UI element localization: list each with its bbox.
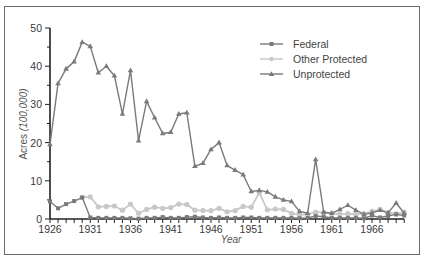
x-tick-label: 1966 <box>360 223 384 235</box>
x-tick-label: 1936 <box>119 223 143 235</box>
data-point <box>136 211 141 216</box>
data-point <box>216 206 221 211</box>
data-point <box>72 199 76 203</box>
data-point <box>193 215 197 219</box>
legend-item-federal: Federal <box>260 38 329 50</box>
x-tick-label: 1926 <box>38 223 62 235</box>
legend-label: Unprotected <box>293 68 350 80</box>
x-tick-label: 1951 <box>240 223 264 235</box>
data-point <box>112 216 116 220</box>
data-point <box>313 156 319 161</box>
data-point <box>136 138 142 143</box>
legend: Federal Other Protected Unprotected <box>260 38 367 80</box>
data-point <box>225 209 230 214</box>
data-point <box>346 216 350 220</box>
data-point <box>290 216 294 220</box>
data-point <box>129 216 133 220</box>
data-point <box>209 216 213 220</box>
data-point <box>144 98 150 103</box>
square-marker-icon <box>270 42 274 46</box>
data-point <box>88 194 93 199</box>
data-point <box>152 115 158 120</box>
legend-label: Federal <box>293 38 329 50</box>
data-point <box>152 205 157 210</box>
data-point <box>184 110 190 115</box>
data-point <box>153 216 157 220</box>
line-chart: 0102030405019261931193619411946195119561… <box>0 0 424 263</box>
data-point <box>56 206 60 210</box>
data-point <box>394 212 398 216</box>
x-tick-label: 1941 <box>159 223 183 235</box>
data-point <box>265 207 270 212</box>
data-point <box>184 202 189 207</box>
data-point <box>128 67 134 72</box>
series-other-protected <box>80 190 407 217</box>
data-point <box>208 208 213 213</box>
data-point <box>265 216 269 220</box>
data-point <box>128 202 133 207</box>
data-point <box>330 216 334 220</box>
data-point <box>313 210 318 215</box>
data-point <box>322 215 326 219</box>
data-point <box>48 199 52 203</box>
data-point <box>104 204 109 209</box>
y-tick-label: 50 <box>30 22 42 34</box>
data-point <box>306 216 310 220</box>
data-point <box>273 216 277 220</box>
data-point <box>161 215 165 219</box>
y-tick-label: 40 <box>30 60 42 72</box>
data-point <box>257 187 263 192</box>
data-point <box>88 215 92 219</box>
x-tick-label: 1931 <box>79 223 103 235</box>
data-point <box>217 215 221 219</box>
data-point <box>200 208 205 213</box>
data-point <box>345 211 350 216</box>
data-point <box>160 206 165 211</box>
data-point <box>168 205 173 210</box>
data-point <box>281 216 285 220</box>
data-point <box>176 202 181 207</box>
x-axis-title: Year <box>221 234 242 245</box>
data-point <box>338 216 342 220</box>
x-tick-label: 1961 <box>320 223 344 235</box>
data-point <box>281 207 286 212</box>
y-tick-label: 30 <box>30 98 42 110</box>
data-point <box>241 204 246 209</box>
data-point <box>249 215 253 219</box>
data-point <box>216 140 222 145</box>
data-point <box>168 129 174 134</box>
data-point <box>233 208 238 213</box>
data-point <box>233 216 237 220</box>
data-point <box>201 215 205 219</box>
data-point <box>144 207 149 212</box>
data-point <box>177 216 181 220</box>
y-tick-label: 20 <box>30 137 42 149</box>
data-point <box>120 216 124 220</box>
series-unprotected <box>47 39 407 216</box>
data-point <box>192 208 197 213</box>
data-point <box>79 39 85 44</box>
data-point <box>378 215 382 219</box>
data-point <box>241 215 245 219</box>
x-tick-label: 1956 <box>280 223 304 235</box>
data-point <box>257 216 261 220</box>
legend-label: Other Protected <box>293 53 367 65</box>
legend-item-other-protected: Other Protected <box>260 53 367 65</box>
data-point <box>185 215 189 219</box>
data-point <box>112 203 117 208</box>
circle-marker-icon <box>269 57 274 62</box>
x-tick-label: 1946 <box>199 223 223 235</box>
data-point <box>354 216 358 220</box>
data-point <box>96 216 100 220</box>
data-point <box>298 216 302 220</box>
data-point <box>337 211 342 216</box>
data-point <box>120 208 125 213</box>
data-point <box>169 216 173 220</box>
data-point <box>104 216 108 220</box>
data-series <box>47 39 407 220</box>
data-point <box>345 202 351 207</box>
data-point <box>96 204 101 209</box>
data-point <box>225 216 229 220</box>
data-point <box>273 206 278 211</box>
y-axis-title: Acres (100,000) <box>18 88 29 159</box>
